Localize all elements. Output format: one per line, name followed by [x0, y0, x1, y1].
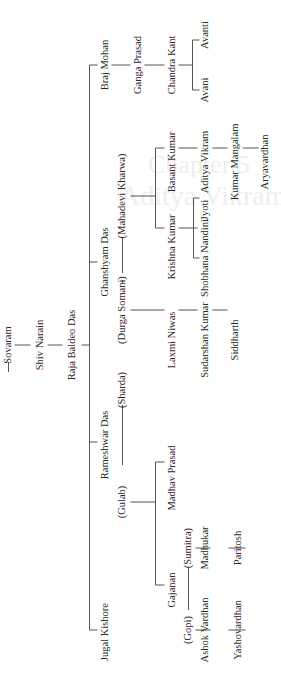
person-shiv-narain: Shiv Narain: [34, 320, 46, 370]
person-madhav-prasad: Madhav Prasad: [166, 445, 178, 510]
person-kumar-mangalam: Kumar Mangalam: [229, 124, 241, 201]
person-aryavardhan: Aryavardhan: [259, 135, 271, 190]
person-braj-mohan: Braj Mohan: [99, 40, 111, 90]
person-gulab: (Gulab): [116, 486, 128, 519]
person-sharda: (Sharda): [116, 372, 128, 408]
person-jugal-kishore: Jugal Kishore: [99, 603, 111, 661]
family-tree-page: Chapter 5 Aditya Vikram Birla SovaramShi…: [0, 0, 281, 686]
person-madhukar: Madhukar: [199, 526, 211, 569]
person-mahadevi-kharwa: (Mahadevi Kharwa): [116, 154, 128, 239]
person-avani: Avani: [199, 78, 211, 103]
person-ganga-prasad: Ganga Prasad: [132, 36, 144, 94]
person-sumitra: (Sumitra): [182, 528, 194, 568]
person-aditya-vikram: Aditya Vikram: [199, 131, 211, 193]
person-ghanshyam-das: Ghanshyam Das: [99, 227, 111, 296]
person-yashovardhan: Yashovardhan: [232, 600, 244, 660]
person-siddharth: Siddharth: [229, 320, 241, 361]
person-jyoti: Jyoti: [199, 200, 211, 220]
person-rameshwar-das: Rameshwar Das: [99, 411, 111, 480]
person-durga-somani: (Durga Somani): [116, 276, 128, 344]
person-paritosh: Paritosh: [232, 531, 244, 565]
person-sovaram: Sovaram: [2, 326, 14, 363]
person-gajanan: Gajanan: [166, 573, 178, 608]
person-sudarshan-kumar: Sudarshan Kumar: [199, 302, 211, 378]
person-ashok-vardhan: Ashok Vardhan: [199, 598, 211, 663]
person-avanti: Avanti: [199, 21, 211, 49]
person-basant-kumar: Basant Kumar: [166, 132, 178, 192]
person-shobhana-nandini: Shobhana Nandini: [199, 219, 211, 297]
person-laxmi-niwas: Laxmi Niwas: [166, 312, 178, 369]
person-krishna-kumar: Krishna Kumar: [166, 214, 178, 279]
person-raja-baldeo-das: Raja Baldeo Das: [66, 310, 78, 381]
person-chandra-kant: Chandra Kant: [166, 36, 178, 95]
person-gopi: (Gopi): [182, 616, 194, 644]
